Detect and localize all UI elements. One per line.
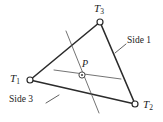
vertex-marker-t2 [132, 101, 138, 107]
vertex-label-t3: T3 [94, 3, 104, 15]
edge-t1-t2-side3 [30, 80, 135, 104]
side-label-side3: Side 3 [9, 95, 33, 105]
vertex-label-t2-subscript: 2 [149, 103, 153, 112]
triangle-figure: T1 T2 T3 P Side 1 Side 3 [0, 0, 163, 122]
side-label-side1: Side 1 [127, 36, 151, 46]
point-label-p: P [82, 59, 88, 69]
point-p-center [81, 74, 83, 76]
cevian-shallow [54, 70, 121, 79]
vertex-label-t1: T1 [10, 73, 20, 85]
vertex-label-t3-subscript: 3 [100, 7, 104, 16]
leader-line-side1 [115, 44, 126, 53]
leader-line-side3 [46, 95, 59, 103]
vertex-marker-t3 [97, 19, 103, 25]
vertex-label-t1-subscript: 1 [16, 77, 20, 86]
vertex-marker-t1 [27, 77, 33, 83]
vertex-label-t2: T2 [143, 99, 153, 111]
